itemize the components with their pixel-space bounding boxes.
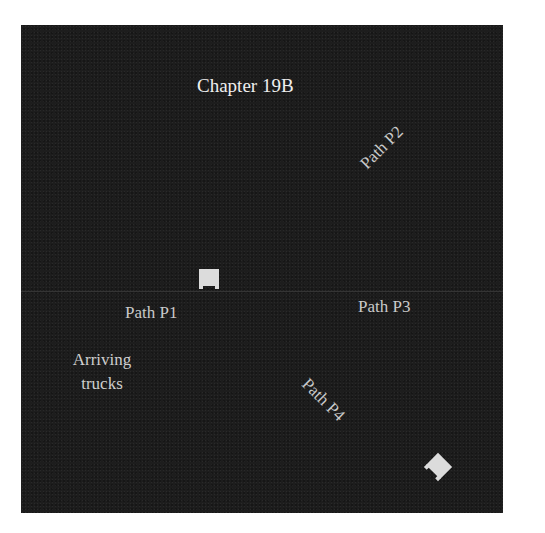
path-p3-label: Path P3 [358, 298, 410, 315]
truck-icon [199, 269, 219, 289]
truck-icon [424, 453, 452, 481]
chapter-title: Chapter 19B [197, 76, 294, 95]
path-p2-label: Path P2 [357, 123, 406, 172]
arriving-trucks-label: Arriving trucks [63, 348, 141, 396]
truck-wheel [215, 285, 219, 289]
dark-photo-panel: Chapter 19B Path P2 Path P1 Path P3 Arri… [21, 25, 503, 513]
road-line [21, 291, 503, 292]
truck-body [426, 453, 452, 479]
path-p1-label: Path P1 [125, 304, 177, 321]
truck-body [199, 269, 219, 286]
arriving-line-1: Arriving [63, 348, 141, 372]
path-p4-label: Path P4 [299, 375, 348, 424]
truck-wheel [199, 285, 203, 289]
arriving-line-2: trucks [63, 372, 141, 396]
